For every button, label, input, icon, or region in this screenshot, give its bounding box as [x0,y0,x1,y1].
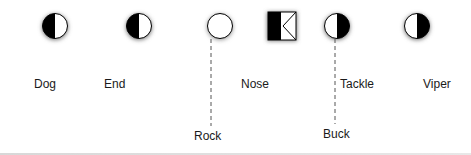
tackle-symbol-icon [324,14,350,41]
end-symbol-icon [126,14,152,41]
dog-symbol-icon [42,14,68,41]
viper-label: Viper [423,77,451,91]
buck-label: Buck [323,127,350,141]
diagram-svg [0,0,471,155]
bottom-divider [0,153,471,155]
end-label: End [104,77,125,91]
dog-label: Dog [34,77,56,91]
rock-label: Rock [194,129,221,143]
nose-label: Nose [241,77,269,91]
square-chevron-symbol-icon [267,12,297,41]
viper-symbol-icon [404,14,430,41]
nose-symbol-icon [207,14,233,41]
formation-diagram: Dog End Nose Tackle Viper Rock Buck [0,0,471,155]
tackle-label: Tackle [340,77,374,91]
